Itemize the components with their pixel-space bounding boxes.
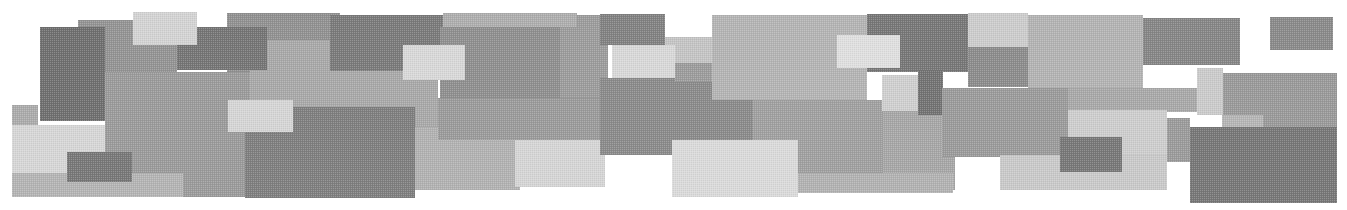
collage-rect-41 (1197, 68, 1223, 115)
collage-rect-39 (1068, 88, 1197, 112)
collage-rect-17 (403, 45, 465, 80)
collage-rect-35 (968, 13, 1028, 47)
collage-rect-48 (1222, 115, 1263, 127)
collage-rect-32 (798, 173, 953, 193)
collage-rect-37 (942, 88, 1070, 157)
collage-rect-43 (1270, 17, 1333, 50)
collage-rect-33 (882, 75, 920, 111)
collage-rect-47 (1167, 118, 1190, 162)
collage-rect-20 (438, 98, 605, 140)
collage-rect-1 (40, 27, 105, 121)
collage-rect-19 (515, 138, 605, 187)
collage-rect-36 (968, 47, 1028, 87)
collage-rect-21 (600, 14, 665, 45)
collage-rect-38 (1028, 15, 1143, 88)
abstract-collage-canvas (0, 0, 1347, 210)
collage-rect-25 (675, 63, 713, 82)
collage-rect-9 (228, 100, 293, 132)
collage-rect-46 (1060, 137, 1122, 172)
collage-rect-5 (133, 12, 197, 45)
collage-rect-34 (918, 70, 943, 115)
collage-rect-30 (672, 140, 798, 197)
collage-rect-40 (1143, 18, 1240, 65)
collage-rect-16 (443, 13, 577, 27)
collage-rect-13 (67, 152, 132, 182)
collage-rect-23 (612, 45, 675, 78)
collage-rect-49 (1190, 127, 1337, 203)
collage-rect-28 (837, 35, 900, 68)
